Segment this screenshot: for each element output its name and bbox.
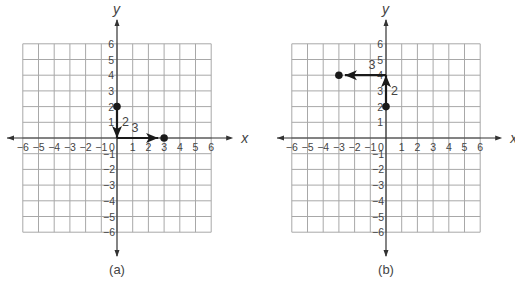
- x-tick-label: −5: [302, 141, 314, 153]
- start-point: [113, 103, 121, 111]
- y-tick-label: 4: [108, 69, 114, 81]
- vector-length-label: 2: [391, 84, 398, 98]
- y-tick-label: −3: [103, 179, 115, 191]
- x-tick-label: 3: [430, 141, 436, 153]
- y-tick-label: 3: [377, 85, 383, 97]
- end-point: [160, 134, 168, 142]
- caption-b: (b): [378, 262, 394, 277]
- x-tick-label: −6: [17, 141, 29, 153]
- x-tick-label: 3: [161, 141, 167, 153]
- x-tick-label: −2: [349, 141, 361, 153]
- x-tick-label: −3: [64, 141, 76, 153]
- y-tick-label: 6: [108, 38, 114, 50]
- y-tick-label: 1: [377, 116, 383, 128]
- start-point: [382, 103, 390, 111]
- graph-b: xy−6−5−4−3−2−10123456123456−1−2−3−4−5−62…: [269, 0, 515, 282]
- y-tick-label: 5: [377, 54, 383, 66]
- x-axis-label: x: [509, 130, 515, 146]
- x-tick-label: 4: [177, 141, 183, 153]
- y-tick-label: 1: [108, 116, 114, 128]
- y-axis-label: y: [112, 1, 121, 17]
- x-tick-label: −2: [80, 141, 92, 153]
- y-tick-label: −4: [372, 195, 384, 207]
- coordinate-grid-b: xy−6−5−4−3−2−10123456123456−1−2−3−4−5−62…: [269, 0, 515, 282]
- y-axis-up-arrow-icon: [384, 19, 389, 26]
- y-tick-label: −2: [372, 163, 384, 175]
- y-axis-down-arrow-icon: [115, 250, 120, 257]
- x-tick-label: −4: [48, 141, 60, 153]
- x-tick-label: 1: [130, 141, 136, 153]
- x-axis-left-arrow-icon: [7, 136, 14, 141]
- y-tick-label: −1: [103, 148, 115, 160]
- x-tick-label: 4: [446, 141, 452, 153]
- x-tick-label: 6: [208, 141, 214, 153]
- x-tick-label: 6: [477, 141, 483, 153]
- end-point: [335, 71, 343, 79]
- y-tick-label: 5: [108, 54, 114, 66]
- x-axis-right-arrow-icon: [226, 136, 233, 141]
- y-axis-up-arrow-icon: [115, 19, 120, 26]
- x-tick-label: 1: [399, 141, 405, 153]
- x-tick-label: −5: [33, 141, 45, 153]
- vector-length-label: 3: [132, 121, 139, 135]
- x-axis-right-arrow-icon: [495, 136, 502, 141]
- graph-a: xy−6−5−4−3−2−10123456123456−1−2−3−4−5−62…: [0, 0, 258, 282]
- x-tick-label: −3: [333, 141, 345, 153]
- y-tick-label: −4: [103, 195, 115, 207]
- y-tick-label: −6: [372, 226, 384, 238]
- y-tick-label: −6: [103, 226, 115, 238]
- y-tick-label: 3: [108, 85, 114, 97]
- y-axis-label: y: [381, 1, 390, 17]
- y-tick-label: −2: [103, 163, 115, 175]
- x-tick-label: 2: [414, 141, 420, 153]
- caption-a: (a): [109, 262, 125, 277]
- vector-length-label: 3: [368, 58, 375, 72]
- vector-length-label: 2: [122, 115, 129, 129]
- x-tick-label: −4: [317, 141, 329, 153]
- x-tick-label: 5: [193, 141, 199, 153]
- x-axis-left-arrow-icon: [277, 136, 284, 141]
- x-tick-label: 5: [462, 141, 468, 153]
- y-tick-label: −5: [103, 211, 115, 223]
- y-tick-label: −1: [372, 148, 384, 160]
- x-axis-label: x: [240, 130, 249, 146]
- x-tick-label: −6: [286, 141, 298, 153]
- y-tick-label: −5: [372, 211, 384, 223]
- y-tick-label: −3: [372, 179, 384, 191]
- y-tick-label: 6: [377, 38, 383, 50]
- coordinate-grid-a: xy−6−5−4−3−2−10123456123456−1−2−3−4−5−62…: [0, 0, 258, 282]
- y-axis-down-arrow-icon: [384, 250, 389, 257]
